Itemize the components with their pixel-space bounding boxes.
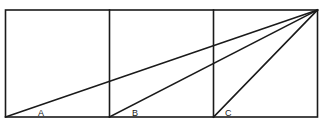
- three-squares-diagram: A B C: [0, 0, 325, 127]
- angle-label-c: C: [225, 108, 232, 118]
- diagonal-a: [6, 10, 318, 117]
- diagonal-c: [214, 10, 318, 117]
- angle-label-b: B: [132, 108, 138, 118]
- angle-label-a: A: [38, 108, 44, 118]
